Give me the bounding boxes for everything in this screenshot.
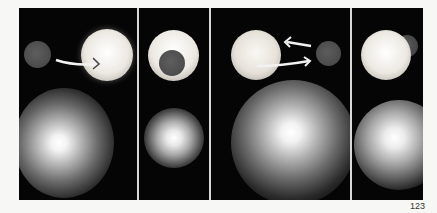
page-number: 123 [410, 201, 425, 211]
diffuse-glow [354, 100, 423, 190]
diffuse-glow [144, 108, 204, 168]
diffuse-glow [231, 80, 350, 200]
diffuse-glow [19, 88, 114, 198]
panel-2 [139, 8, 209, 200]
panel-4 [352, 8, 423, 200]
panel-1 [19, 8, 137, 200]
dark-sphere [159, 50, 185, 76]
panel-3 [211, 8, 350, 200]
figure-strip [19, 8, 423, 200]
bright-sphere [361, 30, 411, 80]
